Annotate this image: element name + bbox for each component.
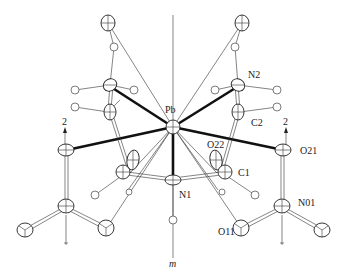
label-c2: C2 xyxy=(251,117,263,128)
label-axis-right: 2 xyxy=(283,116,288,127)
atom-o-nitrate-left-outer xyxy=(17,223,33,237)
label-mirror: m xyxy=(169,258,176,269)
atom-c2-left xyxy=(104,104,116,120)
atom-c2 xyxy=(232,104,244,120)
label-n2: N2 xyxy=(248,69,260,80)
atom-o21-left xyxy=(58,144,74,156)
label-c1: C1 xyxy=(238,167,250,178)
label-n1: N1 xyxy=(179,189,191,200)
atom-o21 xyxy=(275,144,291,156)
atom-n1 xyxy=(165,175,181,185)
label-axis-left: 2 xyxy=(62,116,67,127)
atom-o11 xyxy=(233,220,249,236)
atom-n01-left xyxy=(58,199,74,213)
atom-pb xyxy=(166,120,180,134)
atom-o11-left xyxy=(98,220,114,236)
atom-o-top-right xyxy=(235,15,249,31)
label-o22: O22 xyxy=(207,139,224,150)
label-o21: O21 xyxy=(300,145,317,156)
label-pb: Pb xyxy=(165,104,176,115)
label-o11: O11 xyxy=(218,226,235,237)
atom-c1 xyxy=(218,165,232,179)
atom-o-nitrate-right-outer xyxy=(314,223,330,237)
label-n01: N01 xyxy=(298,197,315,208)
crystal-structure-diagram: Pb N2 C2 O22 C1 O21 N1 N01 O11 m 2 2 xyxy=(0,0,346,280)
atom-o-top-left xyxy=(101,15,115,31)
atom-n01 xyxy=(274,199,290,213)
atom-labels: Pb N2 C2 O22 C1 O21 N1 N01 O11 m 2 2 xyxy=(62,69,317,269)
atom-c1-left xyxy=(116,165,130,179)
